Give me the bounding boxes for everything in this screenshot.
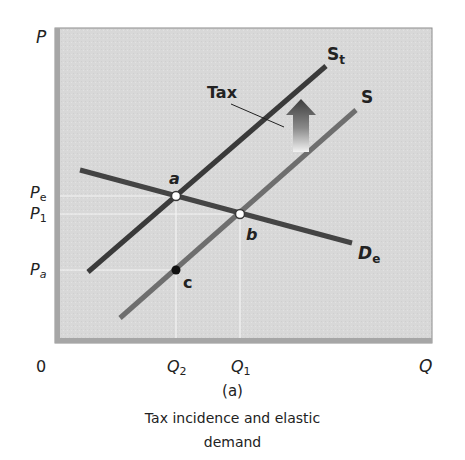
pe-tick-label: Pe xyxy=(30,183,47,204)
point-c-marker xyxy=(172,266,181,275)
plot-area xyxy=(55,28,432,343)
point-a-label: a xyxy=(169,169,180,188)
q-axis-label: Q xyxy=(419,356,432,376)
point-b-label: b xyxy=(246,225,257,244)
panel-label: (a) xyxy=(0,382,465,400)
caption-line-2: demand xyxy=(0,434,465,450)
q1-tick-label: Q1 xyxy=(231,357,251,378)
origin-label: 0 xyxy=(36,357,46,376)
p1-tick-label: P1 xyxy=(30,204,47,225)
p-axis-label: P xyxy=(36,27,47,47)
caption-line-1: Tax incidence and elastic xyxy=(0,410,465,426)
q-axis-bar xyxy=(55,338,432,343)
point-c-label: c xyxy=(183,273,192,292)
point-a-marker xyxy=(172,192,181,201)
pa-tick-label: Pa xyxy=(30,260,47,281)
q2-tick-label: Q2 xyxy=(167,357,187,378)
s-curve-label: S xyxy=(361,87,373,107)
p-axis-bar xyxy=(55,28,60,343)
point-b-marker xyxy=(236,210,245,219)
tax-label: Tax xyxy=(207,83,238,102)
